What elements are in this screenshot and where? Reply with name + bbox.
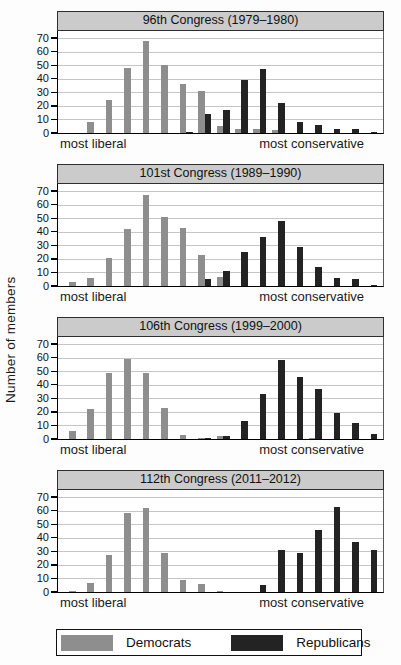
republican-bar bbox=[260, 585, 267, 592]
y-tick-label: 70 bbox=[23, 339, 49, 349]
histogram-bin bbox=[87, 122, 100, 133]
y-tick-mark bbox=[51, 438, 57, 439]
histogram-bin bbox=[161, 217, 174, 286]
democrat-bar bbox=[198, 584, 205, 592]
y-tick-label: 0 bbox=[23, 587, 49, 597]
republican-bar bbox=[205, 114, 212, 133]
y-tick-mark bbox=[51, 65, 57, 66]
republican-bar bbox=[334, 413, 341, 439]
democrat-bar bbox=[180, 228, 187, 286]
histogram-bin bbox=[235, 252, 248, 286]
y-tick-mark bbox=[51, 272, 57, 273]
republican-bar bbox=[315, 389, 322, 439]
democrat-bar bbox=[124, 359, 131, 439]
histogram-bin bbox=[143, 41, 156, 133]
y-tick-mark bbox=[51, 537, 57, 538]
histogram-bars bbox=[58, 184, 383, 286]
y-tick-mark bbox=[51, 496, 57, 497]
democrat-bar bbox=[161, 65, 168, 133]
y-tick-label: 10 bbox=[23, 573, 49, 583]
y-tick-label: 10 bbox=[23, 114, 49, 124]
y-tick-mark bbox=[51, 190, 57, 191]
y-tick-label: 60 bbox=[23, 505, 49, 515]
histogram-bin bbox=[309, 125, 322, 133]
histogram-bin bbox=[346, 423, 359, 439]
histogram-bin bbox=[272, 103, 285, 133]
histogram-bin bbox=[106, 373, 119, 440]
democrat-bar bbox=[106, 258, 113, 287]
panel-title: 106th Congress (1999–2000) bbox=[57, 317, 384, 337]
plot-area: 010203040506070 bbox=[57, 490, 384, 593]
histogram-bin bbox=[235, 80, 248, 133]
plot-area: 010203040506070 bbox=[57, 337, 384, 440]
republican-bar bbox=[223, 436, 230, 439]
democrat-bar bbox=[180, 435, 187, 439]
democrat-bar bbox=[124, 513, 131, 592]
y-tick-label: 70 bbox=[23, 33, 49, 43]
histogram-bin bbox=[364, 132, 377, 133]
congress-panel: 101st Congress (1989–1990) 0102030405060… bbox=[0, 164, 401, 306]
histogram-bin bbox=[87, 583, 100, 593]
x-label-conservative: most conservative bbox=[259, 595, 364, 612]
republican-bar bbox=[241, 421, 248, 439]
legend-swatch-republicans bbox=[231, 635, 283, 651]
y-tick-label: 30 bbox=[23, 240, 49, 250]
histogram-bin bbox=[180, 84, 193, 133]
panels-container: 96th Congress (1979–1980) 01020304050607… bbox=[0, 11, 401, 623]
histogram-bin bbox=[272, 360, 285, 439]
histogram-bin bbox=[253, 69, 266, 133]
x-label-conservative: most conservative bbox=[259, 289, 364, 306]
democrat-bar bbox=[143, 508, 150, 592]
y-tick-mark bbox=[51, 258, 57, 259]
histogram-bin bbox=[143, 195, 156, 286]
y-tick-mark bbox=[51, 37, 57, 38]
y-tick-label: 70 bbox=[23, 186, 49, 196]
y-tick-mark bbox=[51, 357, 57, 358]
y-tick-mark bbox=[51, 218, 57, 219]
histogram-bin bbox=[290, 377, 303, 439]
histogram-bin bbox=[161, 553, 174, 592]
y-tick-mark bbox=[51, 564, 57, 565]
y-tick-mark bbox=[51, 551, 57, 552]
y-tick-mark bbox=[51, 343, 57, 344]
republican-bar bbox=[223, 271, 230, 286]
republican-bar bbox=[241, 80, 248, 133]
y-tick-label: 50 bbox=[23, 366, 49, 376]
histogram-bin bbox=[69, 591, 82, 592]
histogram-bin bbox=[180, 228, 193, 286]
plot-area: 010203040506070 bbox=[57, 184, 384, 287]
histogram-bin bbox=[143, 508, 156, 592]
x-axis-labels: most liberal most conservative bbox=[57, 134, 384, 153]
republican-bar bbox=[371, 550, 378, 592]
republican-bar bbox=[278, 221, 285, 286]
x-axis-labels: most liberal most conservative bbox=[57, 440, 384, 459]
republican-bar bbox=[371, 132, 378, 133]
x-axis-labels: most liberal most conservative bbox=[57, 287, 384, 306]
y-tick-mark bbox=[51, 92, 57, 93]
republican-bar bbox=[334, 507, 341, 593]
democrat-bar bbox=[180, 84, 187, 133]
histogram-bin bbox=[290, 122, 303, 133]
histogram-bin bbox=[272, 221, 285, 286]
histogram-bin bbox=[143, 373, 156, 440]
democrat-bar bbox=[217, 591, 224, 592]
y-tick-label: 20 bbox=[23, 559, 49, 569]
histogram-bin bbox=[161, 408, 174, 439]
histogram-bin bbox=[272, 550, 285, 592]
democrat-bar bbox=[87, 278, 94, 286]
panel-title: 101st Congress (1989–1990) bbox=[57, 164, 384, 184]
democrat-bar bbox=[87, 583, 94, 593]
histogram-bin bbox=[180, 435, 193, 439]
x-label-conservative: most conservative bbox=[259, 442, 364, 459]
histogram-bars bbox=[58, 490, 383, 592]
histogram-bin bbox=[309, 267, 322, 286]
histogram-bin bbox=[309, 530, 322, 592]
histogram-bin bbox=[346, 542, 359, 592]
congress-panel: 106th Congress (1999–2000) 0102030405060… bbox=[0, 317, 401, 459]
democrat-bar bbox=[106, 373, 113, 440]
legend-swatch-democrats bbox=[61, 635, 113, 651]
y-tick-label: 10 bbox=[23, 267, 49, 277]
y-tick-label: 40 bbox=[23, 226, 49, 236]
democrat-bar bbox=[161, 408, 168, 439]
democrat-bar bbox=[87, 409, 94, 439]
